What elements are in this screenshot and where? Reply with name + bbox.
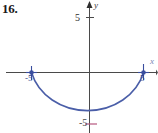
x-tick-label-positive-5: 5 [140,73,145,83]
y-tick-label-negative-5: -5 [79,117,87,128]
y-axis-arrow-icon [87,1,93,8]
y-tick-label-positive-5: 5 [75,12,80,23]
figure-container: 16. y x 5 -5 -5 5 [0,0,158,133]
x-axis-arrow-icon [156,70,158,76]
y-axis-label: y [94,0,98,10]
semicircle-curve [32,73,144,111]
x-tick-label-negative-5: -5 [25,73,33,83]
x-axis-label: x [150,56,154,66]
